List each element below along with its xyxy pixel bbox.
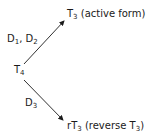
d2-sub: 2 [33,38,37,46]
d3-sub: 3 [33,102,37,110]
t4-label: T4 [14,64,25,76]
d3-label: D3 [25,97,37,109]
t4-sub: 4 [20,69,24,77]
d3-base: D [25,97,33,108]
rt3-reverse-label: rT3 (reverse T3) [67,120,144,132]
d1-base: D [7,33,15,44]
t3-suffix: (active form) [78,8,146,19]
rt3-suffix-pre: (reverse T [82,120,136,131]
t3-active-form-label: T3 (active form) [67,8,145,20]
rt3-suffix-post: ) [140,120,144,131]
d1-d2-label: D1, D2 [7,33,38,45]
